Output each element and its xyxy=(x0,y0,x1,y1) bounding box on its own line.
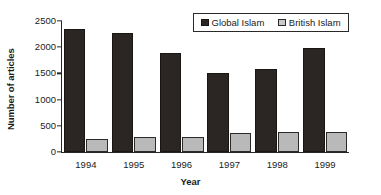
bar-global-islam xyxy=(112,33,134,152)
bar-british-islam xyxy=(134,137,156,152)
bar-group xyxy=(303,21,347,152)
y-axis-tick-label: 0 xyxy=(18,147,56,157)
x-axis-tick-label: 1998 xyxy=(267,159,288,170)
bar-group xyxy=(112,21,156,152)
bar-group xyxy=(207,21,251,152)
bar-global-islam xyxy=(255,69,277,152)
legend-label-global-islam: Global Islam xyxy=(212,18,265,28)
y-axis-tick-label: 1000 xyxy=(18,95,56,105)
chart-legend: Global Islam British Islam xyxy=(193,13,349,32)
y-axis-tick-mark xyxy=(57,47,62,48)
y-axis-title: Number of articles xyxy=(3,34,17,144)
y-axis-tick-label: 2000 xyxy=(18,42,56,52)
bar-british-islam xyxy=(230,133,252,152)
y-axis-tick-label: 1500 xyxy=(18,69,56,79)
bar-global-islam xyxy=(207,73,229,152)
bar-group xyxy=(255,21,299,152)
y-axis-tick-label: 2500 xyxy=(18,16,56,26)
bar-british-islam xyxy=(278,132,300,152)
y-axis-tick-mark xyxy=(57,99,62,100)
legend-label-british-islam: British Islam xyxy=(289,18,341,28)
plot-area xyxy=(62,21,349,152)
bar-chart: Number of articles 05001000150020002500 … xyxy=(0,0,381,195)
bar-group xyxy=(64,21,108,152)
y-axis-tick-mark xyxy=(57,151,62,152)
y-axis-tick-mark xyxy=(57,125,62,126)
y-axis-tick-mark xyxy=(57,73,62,74)
legend-entry-global-islam: Global Islam xyxy=(201,18,264,28)
bar-british-islam xyxy=(182,137,204,152)
x-axis-title: Year xyxy=(0,176,381,187)
legend-swatch-global-islam xyxy=(201,19,209,27)
y-axis-tick-labels: 05001000150020002500 xyxy=(18,0,56,195)
x-axis-tick-label: 1997 xyxy=(219,159,240,170)
bar-global-islam xyxy=(160,53,182,152)
bar-global-islam xyxy=(64,29,86,152)
x-axis-tick-label: 1996 xyxy=(171,159,192,170)
x-axis-tick-label: 1995 xyxy=(123,159,144,170)
x-axis-tick-label: 1999 xyxy=(315,159,336,170)
y-axis-tick-label: 500 xyxy=(18,121,56,131)
legend-swatch-british-islam xyxy=(278,19,286,27)
bar-global-islam xyxy=(303,48,325,152)
bar-group xyxy=(160,21,204,152)
bar-british-islam xyxy=(326,132,348,152)
bar-british-islam xyxy=(86,139,108,152)
x-axis-tick-label: 1994 xyxy=(75,159,96,170)
legend-entry-british-islam: British Islam xyxy=(278,18,340,28)
y-axis-tick-mark xyxy=(57,20,62,21)
